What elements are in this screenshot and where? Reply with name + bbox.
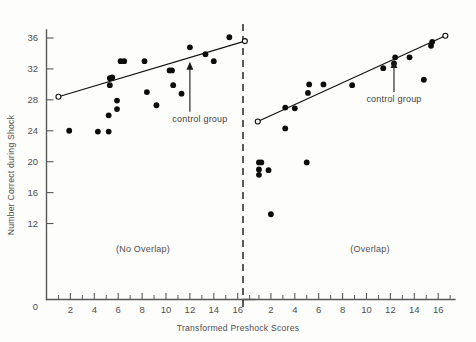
data-point <box>304 160 310 166</box>
data-point <box>114 106 120 112</box>
data-point <box>142 58 148 64</box>
y-tick-label-20: 20 <box>27 156 38 167</box>
panel-label-overlap: (Overlap) <box>350 244 389 254</box>
data-point <box>179 91 185 97</box>
data-point <box>349 82 355 88</box>
data-point <box>292 105 298 111</box>
fit-endpoint-start-no-overlap <box>56 94 61 99</box>
y-origin-label: 0 <box>33 301 38 312</box>
x-tick-label-no-overlap-2: 2 <box>68 304 73 315</box>
data-point <box>256 167 262 173</box>
y-tick-label-24: 24 <box>27 125 38 136</box>
data-point <box>305 90 311 96</box>
x-tick-label-overlap-12: 12 <box>385 304 396 315</box>
data-point <box>321 81 327 87</box>
y-tick-label-28: 28 <box>27 94 38 105</box>
data-point <box>380 65 386 71</box>
x-axis-title: Transformed Preshock Scores <box>177 323 300 333</box>
data-point <box>106 129 112 135</box>
data-point <box>256 172 262 178</box>
fit-endpoint-end-no-overlap <box>242 39 247 44</box>
data-point <box>154 102 160 108</box>
x-tick-label-no-overlap-14: 14 <box>209 304 220 315</box>
panel-overlap <box>255 33 448 217</box>
scatter-plot-figure: 121620242832360Number Correct during Sho… <box>0 0 476 342</box>
data-point <box>187 44 193 50</box>
x-tick-label-no-overlap-4: 4 <box>92 304 97 315</box>
x-tick-label-overlap-6: 6 <box>316 304 321 315</box>
plot-canvas: 121620242832360Number Correct during Sho… <box>0 0 476 342</box>
y-axis-title: Number Correct during Shock <box>6 114 16 235</box>
data-point <box>95 129 101 135</box>
x-tick-label-no-overlap-6: 6 <box>116 304 121 315</box>
x-tick-label-no-overlap-8: 8 <box>139 304 144 315</box>
data-point <box>106 112 112 118</box>
data-point <box>109 75 115 81</box>
control-group-arrow-head-no-overlap <box>187 62 194 70</box>
regression-line-no-overlap <box>58 41 244 97</box>
data-point <box>268 211 274 217</box>
data-point <box>266 167 272 173</box>
data-point <box>144 89 150 95</box>
data-point <box>429 39 435 45</box>
x-tick-label-overlap-4: 4 <box>292 304 297 315</box>
data-point <box>121 58 127 64</box>
data-point <box>66 128 72 134</box>
data-point <box>421 77 427 83</box>
data-point <box>306 81 312 87</box>
y-tick-label-36: 36 <box>27 32 38 43</box>
x-tick-label-no-overlap-12: 12 <box>185 304 196 315</box>
control-group-label-overlap: control group <box>366 94 421 104</box>
x-tick-label-overlap-10: 10 <box>361 304 372 315</box>
fit-endpoint-start-overlap <box>255 119 260 124</box>
panel-label-no-overlap: (No Overlap) <box>116 244 170 254</box>
data-point <box>170 82 176 88</box>
x-tick-label-overlap-2: 2 <box>268 304 273 315</box>
x-tick-label-overlap-14: 14 <box>409 304 420 315</box>
x-tick-label-no-overlap-16: 16 <box>232 304 243 315</box>
x-tick-label-no-overlap-10: 10 <box>161 304 172 315</box>
x-tick-label-overlap-8: 8 <box>340 304 345 315</box>
data-point <box>169 68 175 74</box>
data-point <box>107 82 113 88</box>
data-point <box>258 160 264 166</box>
y-tick-label-12: 12 <box>27 218 38 229</box>
y-tick-label-32: 32 <box>27 63 38 74</box>
data-point <box>211 58 217 64</box>
data-point <box>282 105 288 111</box>
control-group-label-no-overlap: control group <box>172 114 227 124</box>
fit-endpoint-end-overlap <box>443 33 448 38</box>
data-point <box>114 98 120 104</box>
x-tick-label-overlap-16: 16 <box>433 304 444 315</box>
data-point <box>282 126 288 132</box>
data-point <box>203 51 209 57</box>
data-point <box>226 34 232 40</box>
y-tick-label-16: 16 <box>27 187 38 198</box>
data-point <box>392 54 398 60</box>
data-point <box>407 54 413 60</box>
